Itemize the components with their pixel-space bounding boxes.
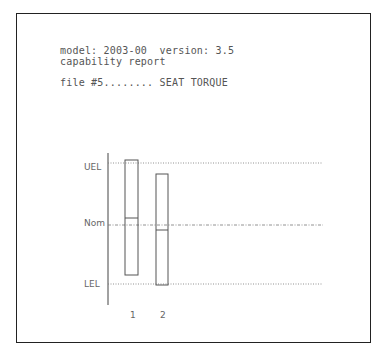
box-chart	[0, 0, 386, 359]
x-label-1: 1	[130, 310, 136, 320]
uel-label: UEL	[84, 162, 101, 172]
lel-label: LEL	[84, 279, 100, 289]
x-label-2: 2	[160, 310, 166, 320]
nom-label: Nom	[84, 218, 105, 228]
